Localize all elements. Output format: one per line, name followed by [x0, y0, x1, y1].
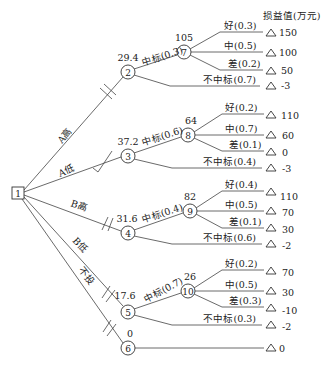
win-label-4: 中标(0.4) [140, 201, 184, 225]
payoff-value: 60 [282, 130, 294, 141]
chance-node-5: 5 [121, 305, 135, 319]
terminal-triangle-icon [266, 67, 276, 74]
svg-text:5: 5 [125, 308, 131, 318]
ev-node-3: 37.2 [117, 136, 138, 147]
terminal-triangle-icon [266, 164, 276, 171]
lose-label-5: 不中标(0.3) [203, 313, 256, 324]
terminal-triangle-icon [266, 188, 276, 195]
payoff-value: 30 [282, 224, 294, 235]
outcome-label: 差(0.3) [229, 295, 262, 306]
payoff-value: 100 [279, 47, 297, 58]
svg-text:10: 10 [182, 287, 194, 297]
win-label-3: 中标(0.6) [140, 124, 184, 148]
outcome-label: 中(0.7) [225, 123, 258, 134]
outcome-label: 好(0.4) [225, 179, 258, 190]
payoff-value: -3 [282, 163, 291, 174]
ev-node-4: 31.6 [116, 213, 137, 224]
svg-text:1: 1 [15, 189, 21, 199]
terminal-triangle-icon [266, 29, 276, 36]
payoff-value: 50 [281, 65, 293, 76]
terminal-triangle-icon [266, 49, 276, 56]
payoff-value: -2 [282, 321, 291, 332]
branch-label-b-high: B高 [69, 198, 89, 214]
svg-text:2: 2 [125, 68, 131, 78]
payoff-value: -3 [281, 80, 290, 91]
payoff-header: 损益值(万元) [263, 10, 320, 21]
ev-node-5: 17.6 [114, 290, 135, 301]
branch-label-a-low: A低 [56, 162, 77, 179]
decision-branches [22, 77, 123, 343]
terminal-triangle-icon [266, 321, 276, 328]
chance-node-3: 3 [121, 149, 135, 163]
outcome-label: 中(0.5) [225, 199, 258, 210]
lose-label-3: 不中标(0.4) [203, 156, 256, 167]
lose-label-4: 不中标(0.6) [203, 232, 256, 243]
win-label-5: 中标(0.7) [142, 275, 185, 305]
chance-node-9: 9 [183, 204, 197, 218]
chance-node-6: 6 [121, 341, 135, 355]
ev-node-6: 0 [127, 328, 133, 339]
chance-node-4: 4 [121, 226, 135, 240]
payoff-value: 70 [282, 207, 294, 218]
payoff-value: -10 [282, 305, 297, 316]
outcome-label: 好(0.2) [225, 258, 258, 269]
chance-node-10: 10 [181, 284, 195, 298]
outcome-label: 差(0.2) [228, 58, 261, 69]
terminal-triangle-icon [266, 344, 276, 351]
payoff-value: 0 [282, 147, 288, 158]
terminal-nodes [266, 29, 276, 351]
decision-node-1: 1 [12, 187, 24, 199]
outcome-label: 好(0.2) [225, 102, 258, 113]
outcome-label: 好(0.3) [224, 20, 257, 31]
outcome-label: 中(0.5) [224, 40, 257, 51]
terminal-triangle-icon [266, 240, 276, 247]
terminal-triangle-icon [266, 224, 276, 231]
outcome-label: 差(0.1) [229, 216, 262, 227]
terminal-triangle-icon [266, 267, 276, 274]
outcome-label: 中(0.5) [225, 279, 258, 290]
ev-node-9: 82 [184, 191, 196, 202]
svg-text:3: 3 [125, 152, 131, 162]
svg-text:4: 4 [125, 229, 131, 239]
terminal-triangle-icon [266, 207, 276, 214]
payoff-value: 0 [279, 343, 285, 354]
ev-node-8: 64 [185, 115, 197, 126]
svg-text:9: 9 [187, 207, 193, 217]
decision-tree: A高 A低 B高 B低 不投 [0, 0, 327, 370]
payoff-value: 110 [281, 110, 299, 121]
payoff-value: 150 [279, 27, 297, 38]
terminal-triangle-icon [266, 304, 276, 311]
branch-label-no-bid: 不投 [76, 264, 97, 287]
terminal-triangle-icon [266, 287, 276, 294]
payoff-value: 70 [282, 267, 294, 278]
lose-label-2: 不中标(0.7) [203, 74, 256, 85]
pruning-marks [93, 84, 116, 336]
ev-node-2: 29.4 [117, 52, 138, 63]
ev-node-7: 105 [175, 32, 193, 43]
payoff-value: -2 [282, 240, 291, 251]
win-label-2: 中标(0.3) [140, 44, 184, 68]
terminal-triangle-icon [266, 82, 276, 89]
ev-node-10: 26 [184, 271, 196, 282]
terminal-triangle-icon [266, 131, 276, 138]
terminal-triangle-icon [266, 148, 276, 155]
payoff-value: 30 [282, 287, 294, 298]
outcome-label: 差(0.1) [229, 139, 262, 150]
svg-text:6: 6 [125, 344, 131, 354]
svg-text:8: 8 [185, 131, 191, 141]
branch-label-a-high: A高 [54, 125, 74, 146]
chance-node-2: 2 [121, 65, 135, 79]
terminal-triangle-icon [266, 111, 276, 118]
payoff-value: 110 [280, 191, 298, 202]
